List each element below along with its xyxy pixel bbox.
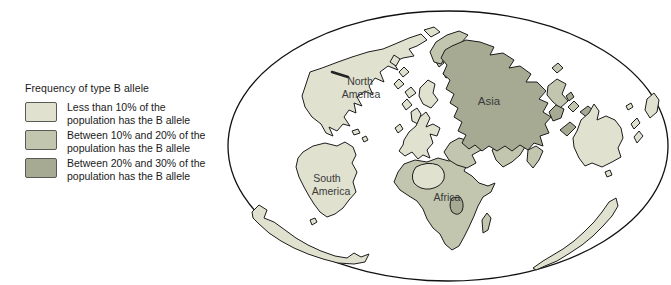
label-north-america-line2: America <box>342 88 381 100</box>
label-south-america-line1: South <box>313 172 341 184</box>
label-north-america-line1: North <box>347 75 373 87</box>
tasmania-island <box>605 170 612 177</box>
label-south-america-line2: America <box>312 185 351 197</box>
label-africa: Africa <box>434 191 461 203</box>
sahara-region-patch <box>412 163 444 189</box>
world-map-svg: North America Asia South America Africa <box>0 0 671 285</box>
label-asia: Asia <box>478 95 501 107</box>
page: Frequency of type B allele Less than 10%… <box>0 0 671 285</box>
world-map: North America Asia South America Africa <box>0 0 671 285</box>
